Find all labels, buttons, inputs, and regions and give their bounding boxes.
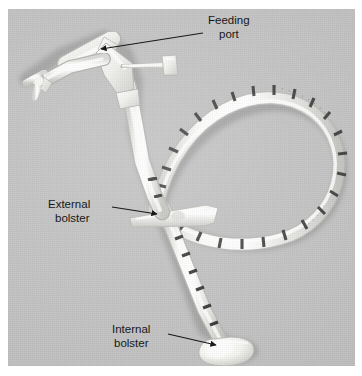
annotation-external-bolster: External bolster bbox=[48, 198, 157, 224]
annotation-external-bolster-label: External bolster bbox=[48, 198, 93, 224]
annotation-external-bolster-line1: External bbox=[48, 198, 90, 210]
figure-container: . . . . . . . . . . . . . . . bbox=[0, 0, 362, 376]
annotation-feeding-port-label: Feeding port bbox=[208, 14, 253, 40]
annotation-feeding-port-line1: Feeding bbox=[208, 14, 250, 26]
annotation-internal-bolster-line2: bolster bbox=[114, 337, 149, 349]
annotation-internal-bolster-arrow bbox=[168, 334, 216, 345]
annotation-internal-bolster: Internal bolster bbox=[112, 323, 216, 349]
annotation-internal-bolster-line1: Internal bbox=[112, 323, 150, 335]
annotation-external-bolster-arrow bbox=[112, 207, 157, 214]
annotation-layer: Feeding port External bolster Internal b… bbox=[0, 0, 362, 376]
annotation-internal-bolster-label: Internal bolster bbox=[112, 323, 154, 349]
annotation-feeding-port-line2: port bbox=[219, 28, 240, 40]
annotation-feeding-port: Feeding port bbox=[101, 14, 253, 49]
annotation-feeding-port-arrow bbox=[101, 33, 203, 49]
annotation-external-bolster-line2: bolster bbox=[55, 212, 90, 224]
